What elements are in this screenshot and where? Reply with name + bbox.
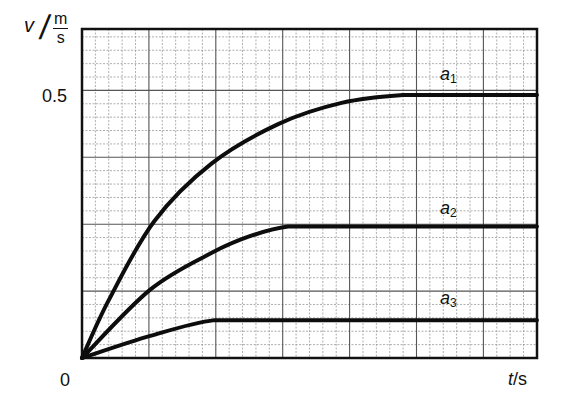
series-label-sub: 2	[450, 206, 457, 220]
series-label-main: a	[440, 64, 450, 84]
series-label-main: a	[440, 198, 450, 218]
origin-label: 0	[60, 370, 70, 391]
series-label-main: a	[440, 288, 450, 308]
y-axis-symbol: v	[24, 14, 34, 37]
y-unit-denominator: s	[57, 29, 65, 46]
series-label-a3: a3	[440, 288, 457, 310]
series-label-a2: a2	[440, 198, 457, 220]
y-tick-0.5: 0.5	[42, 86, 67, 107]
velocity-time-chart	[0, 0, 568, 404]
y-unit-numerator: m	[53, 10, 68, 29]
y-axis-unit: m s	[53, 10, 68, 47]
x-axis-unit: /s	[513, 369, 527, 389]
series-label-a1: a1	[440, 64, 457, 86]
x-axis-label: t/s	[508, 369, 527, 390]
minor-grid	[82, 29, 537, 358]
series-label-sub: 3	[450, 296, 457, 310]
series-label-sub: 1	[450, 72, 457, 86]
